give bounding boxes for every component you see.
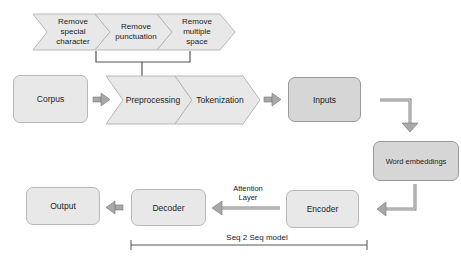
node-decoder: Decoder	[131, 189, 206, 226]
elbow-arrow-down-icon	[380, 100, 418, 132]
step-remove-punctuation: Remove punctuation	[110, 14, 162, 50]
node-preprocessing: Preprocessing	[122, 76, 184, 124]
node-inputs: Inputs	[288, 77, 361, 122]
node-word-embeddings: Word embeddings	[373, 141, 459, 181]
label-seq2seq-model: Seq 2 Seq model	[212, 233, 302, 242]
elbow-arrow-left-icon	[377, 184, 415, 216]
arrow-right-icon	[264, 93, 281, 106]
step-remove-multiple-space: Remove multiple space	[172, 14, 222, 50]
arrow-left-icon	[106, 201, 123, 214]
attention-arrow-left-icon	[212, 201, 280, 215]
arrow-right-icon	[93, 93, 110, 106]
bracket-line	[96, 51, 190, 62]
node-tokenization: Tokenization	[190, 76, 250, 124]
node-corpus: Corpus	[13, 75, 88, 123]
node-encoder: Encoder	[286, 190, 359, 228]
label-attention-layer: Attention Layer	[226, 184, 270, 202]
node-output: Output	[26, 187, 100, 225]
step-remove-special-character: Remove special character	[47, 14, 99, 50]
